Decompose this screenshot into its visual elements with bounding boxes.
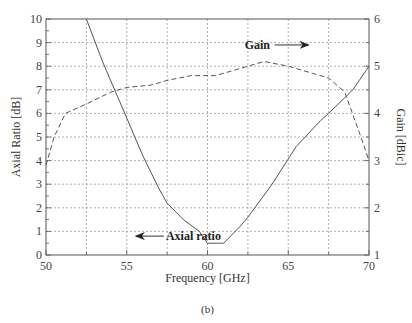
x-tick-label: 70 bbox=[363, 259, 375, 273]
y-right-tick-label: 3 bbox=[374, 154, 380, 168]
y-right-axis-title: Gain [dBic] bbox=[394, 109, 408, 166]
y-right-tick-label: 4 bbox=[374, 106, 380, 120]
y-left-tick-label: 4 bbox=[36, 154, 42, 168]
x-axis-title: Frequency [GHz] bbox=[165, 271, 249, 285]
axial-ratio-gain-chart: 0123456789101234565055606570Frequency [G… bbox=[0, 0, 412, 323]
x-tick-label: 50 bbox=[40, 259, 52, 273]
y-right-tick-label: 6 bbox=[374, 12, 380, 26]
y-left-tick-label: 5 bbox=[36, 130, 42, 144]
gain-annotation: Gain bbox=[245, 38, 271, 52]
y-right-tick-label: 2 bbox=[374, 201, 380, 215]
y-left-tick-label: 8 bbox=[36, 59, 42, 73]
axial-ratio-annotation: Axial ratio bbox=[166, 229, 221, 243]
y-right-tick-label: 5 bbox=[374, 59, 380, 73]
y-left-tick-label: 9 bbox=[36, 36, 42, 50]
x-tick-label: 65 bbox=[282, 259, 294, 273]
y-left-tick-label: 6 bbox=[36, 106, 42, 120]
y-left-tick-label: 10 bbox=[30, 12, 42, 26]
y-left-axis-title: Axial Ratio [dB] bbox=[9, 97, 23, 178]
x-tick-label: 55 bbox=[121, 259, 133, 273]
y-left-tick-label: 7 bbox=[36, 83, 42, 97]
y-left-tick-label: 3 bbox=[36, 177, 42, 191]
figure-caption: (b) bbox=[201, 303, 214, 316]
y-left-tick-label: 2 bbox=[36, 201, 42, 215]
y-left-tick-label: 1 bbox=[36, 224, 42, 238]
axial-ratio-series bbox=[86, 19, 369, 243]
